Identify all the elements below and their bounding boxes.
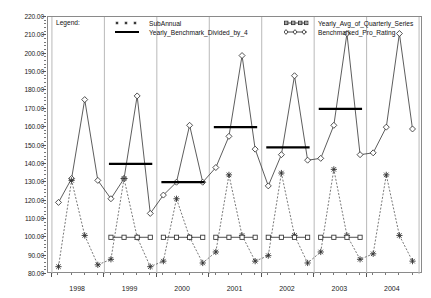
x-axis-minor-tick bbox=[372, 273, 373, 275]
y-axis-tick bbox=[42, 16, 46, 17]
asterisk-marker bbox=[200, 260, 206, 266]
y-axis-minor-tick bbox=[44, 64, 46, 65]
y-axis-minor-tick bbox=[44, 148, 46, 149]
square-marker bbox=[122, 235, 126, 239]
y-axis-minor-tick bbox=[44, 82, 46, 83]
asterisk-marker bbox=[265, 253, 271, 259]
legend-title: Legend: bbox=[56, 19, 80, 26]
y-axis-minor-tick bbox=[44, 214, 46, 215]
asterisk-marker bbox=[226, 172, 232, 178]
diamond-marker bbox=[108, 196, 114, 202]
square-marker bbox=[266, 235, 270, 239]
x-axis-tick bbox=[51, 273, 52, 277]
y-axis-minor-tick bbox=[44, 229, 46, 230]
y-axis-minor-tick bbox=[44, 137, 46, 138]
y-axis-minor-tick bbox=[44, 97, 46, 98]
y-axis-tick bbox=[42, 218, 46, 219]
y-axis-minor-tick bbox=[44, 133, 46, 134]
square-marker bbox=[188, 235, 192, 239]
y-axis-minor-tick bbox=[44, 203, 46, 204]
y-axis-minor-tick bbox=[44, 60, 46, 61]
y-axis-minor-tick bbox=[44, 225, 46, 226]
y-axis-minor-tick bbox=[44, 247, 46, 248]
y-axis-minor-tick bbox=[44, 262, 46, 263]
diamond-marker bbox=[226, 133, 232, 139]
y-axis-tick bbox=[42, 200, 46, 201]
x-axis-minor-tick bbox=[189, 273, 190, 275]
y-axis-minor-tick bbox=[44, 23, 46, 24]
thick-line-icon bbox=[115, 28, 145, 36]
y-axis-tick bbox=[42, 34, 46, 35]
y-axis-minor-tick bbox=[44, 119, 46, 120]
y-axis-minor-tick bbox=[44, 130, 46, 131]
legend-entry-yearly-benchmark: Yearly_Benchmark_Divided_by_4 bbox=[115, 27, 248, 37]
square-marker bbox=[161, 235, 165, 239]
y-axis-minor-tick bbox=[44, 115, 46, 116]
square-marker bbox=[253, 235, 257, 239]
diamond-marker bbox=[239, 53, 245, 59]
y-axis-minor-tick bbox=[44, 42, 46, 43]
y-axis-minor-tick bbox=[44, 75, 46, 76]
diamond-marker bbox=[396, 31, 402, 37]
y-axis-minor-tick bbox=[44, 240, 46, 241]
y-axis-minor-tick bbox=[44, 167, 46, 168]
diamond-marker bbox=[383, 124, 389, 130]
asterisk-marker bbox=[69, 177, 75, 183]
x-axis-minor-tick bbox=[57, 273, 58, 275]
diamond-marker bbox=[265, 183, 271, 189]
asterisk-marker bbox=[318, 249, 324, 255]
x-axis-minor-tick bbox=[280, 273, 281, 275]
diamond-marker bbox=[318, 155, 324, 161]
legend-label-benchmarked-pro-rating: Benchmarked_Pro_Rating bbox=[318, 28, 395, 37]
x-axis-tick-label: 2003 bbox=[332, 285, 348, 292]
x-axis-minor-tick bbox=[110, 273, 111, 275]
x-axis-minor-tick bbox=[359, 273, 360, 275]
asterisk-marker bbox=[82, 232, 88, 238]
diamond-marker bbox=[134, 93, 140, 99]
y-axis-minor-tick bbox=[44, 211, 46, 212]
x-axis-tick bbox=[103, 273, 104, 277]
plot-area bbox=[47, 16, 422, 273]
square-marker bbox=[201, 235, 205, 239]
y-axis-minor-tick bbox=[44, 244, 46, 245]
x-axis-minor-tick bbox=[241, 273, 242, 275]
y-axis-tick bbox=[42, 108, 46, 109]
square-marker bbox=[240, 235, 244, 239]
asterisk-marker bbox=[173, 196, 179, 202]
asterisk-marker bbox=[357, 256, 363, 262]
y-axis-tick bbox=[42, 163, 46, 164]
asterisk-marker bbox=[160, 258, 166, 264]
asterisk-marker bbox=[383, 172, 389, 178]
y-axis-minor-tick bbox=[44, 20, 46, 21]
diamond-marker bbox=[95, 177, 101, 183]
square-marker bbox=[279, 235, 283, 239]
diamond-line-icon bbox=[284, 28, 314, 36]
x-axis-minor-tick bbox=[84, 273, 85, 275]
diamond-marker bbox=[357, 152, 363, 158]
x-axis-tick bbox=[261, 273, 262, 277]
y-axis-minor-tick bbox=[44, 185, 46, 186]
asterisk-marker bbox=[121, 175, 127, 181]
y-axis-tick bbox=[42, 181, 46, 182]
square-marker bbox=[319, 235, 323, 239]
y-axis-minor-tick bbox=[44, 266, 46, 267]
y-axis-minor-tick bbox=[44, 78, 46, 79]
y-axis-minor-tick bbox=[44, 192, 46, 193]
x-axis-minor-tick bbox=[320, 273, 321, 275]
y-axis-minor-tick bbox=[44, 156, 46, 157]
y-axis-minor-tick bbox=[44, 152, 46, 153]
y-axis-minor-tick bbox=[44, 100, 46, 101]
y-axis-minor-tick bbox=[44, 222, 46, 223]
x-axis-minor-tick bbox=[175, 273, 176, 275]
y-axis-minor-tick bbox=[44, 258, 46, 259]
x-axis-tick-label: 2002 bbox=[279, 285, 295, 292]
x-axis-minor-tick bbox=[254, 273, 255, 275]
square-marker bbox=[135, 235, 139, 239]
x-axis-tick-label: 2000 bbox=[174, 285, 190, 292]
x-axis: 1998199920002001200220032004 bbox=[0, 273, 431, 298]
y-axis-minor-tick bbox=[44, 207, 46, 208]
square-marker bbox=[306, 235, 310, 239]
y-axis-tick bbox=[42, 145, 46, 146]
x-axis-minor-tick bbox=[202, 273, 203, 275]
y-axis-minor-tick bbox=[44, 189, 46, 190]
